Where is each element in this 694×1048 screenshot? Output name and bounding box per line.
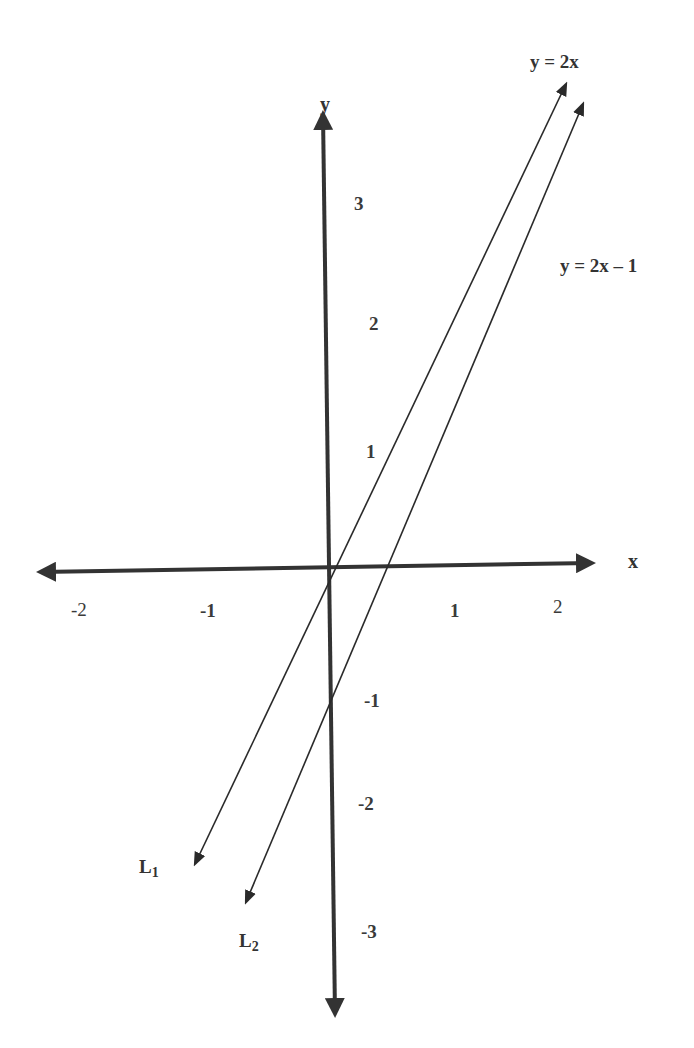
x-axis-label: x bbox=[628, 551, 638, 571]
y-tick-neg3: -3 bbox=[361, 922, 377, 941]
line-l1 bbox=[195, 84, 566, 864]
x-tick-neg2: -2 bbox=[71, 600, 87, 619]
equation-label-l2: y = 2x – 1 bbox=[560, 256, 637, 275]
y-axis-label: y bbox=[320, 94, 330, 114]
y-tick-1: 1 bbox=[366, 442, 376, 461]
y-tick-3: 3 bbox=[354, 194, 364, 213]
x-tick-2: 2 bbox=[553, 597, 563, 616]
y-axis bbox=[323, 114, 335, 1014]
equation-label-l1: y = 2x bbox=[530, 52, 579, 71]
line-name-l1: L1 bbox=[139, 857, 159, 880]
line-l2 bbox=[246, 104, 583, 902]
x-tick-neg1: -1 bbox=[200, 601, 216, 620]
line-name-l2: L2 bbox=[239, 931, 259, 954]
y-tick-neg1: -1 bbox=[364, 691, 380, 710]
line-name-l2-letter: L bbox=[239, 930, 252, 951]
line-name-l2-subscript: 2 bbox=[252, 939, 259, 954]
x-axis bbox=[40, 563, 592, 572]
line-name-l1-subscript: 1 bbox=[152, 865, 159, 880]
y-tick-2: 2 bbox=[369, 314, 379, 333]
coordinate-plane bbox=[0, 0, 694, 1048]
x-tick-1: 1 bbox=[450, 601, 460, 620]
y-tick-neg2: -2 bbox=[358, 794, 374, 813]
line-name-l1-letter: L bbox=[139, 856, 152, 877]
